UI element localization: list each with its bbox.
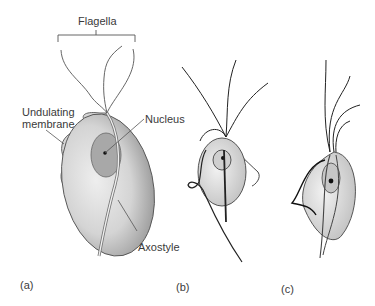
flagellum-1 (61, 50, 107, 113)
panel-label-a: (a) (20, 279, 33, 291)
flagellum-3 (107, 49, 134, 113)
leader-undulating (46, 130, 64, 144)
trichomonad-diagram (0, 0, 375, 306)
panel-label-c: (c) (281, 283, 294, 295)
label-nucleus: Nucleus (145, 113, 185, 125)
panel-label-b: (b) (176, 281, 189, 293)
label-axostyle: Axostyle (138, 241, 180, 253)
nucleus-b (213, 150, 231, 170)
cell-b (182, 60, 268, 262)
label-undulating-membrane-2: membrane (22, 118, 75, 130)
flagella-bracket (58, 30, 135, 42)
label-flagella: Flagella (78, 15, 117, 27)
label-undulating-membrane-1: Undulating (22, 106, 75, 118)
cell-c (292, 60, 360, 258)
cell-a (46, 30, 167, 265)
